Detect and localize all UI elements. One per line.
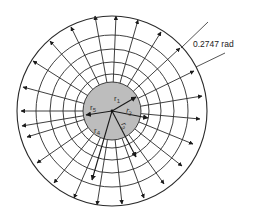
radial-arrow (138, 71, 194, 98)
radial-arrow (37, 128, 88, 163)
radial-flow-diagram: r1 r2 r3 r4 r5 0.2747 rad (0, 0, 255, 219)
radial-arrow (22, 116, 83, 126)
radial-arrow (27, 119, 84, 137)
radial-arrow (141, 96, 202, 106)
angle-annotation: 0.2747 rad (181, 22, 234, 67)
radial-arrow (71, 27, 99, 85)
radial-arrow (54, 134, 94, 183)
angle-leader-line-2 (196, 53, 225, 67)
radial-arrow (141, 114, 200, 119)
radial-arrow (133, 48, 180, 91)
radial-arrow (135, 129, 182, 166)
radial-arrow (129, 135, 164, 184)
radial-arrow (33, 61, 87, 95)
angle-label: 0.2747 rad (193, 39, 234, 49)
radial-arrow (50, 41, 93, 89)
radial-arrow (122, 138, 144, 198)
center-point (111, 110, 114, 113)
